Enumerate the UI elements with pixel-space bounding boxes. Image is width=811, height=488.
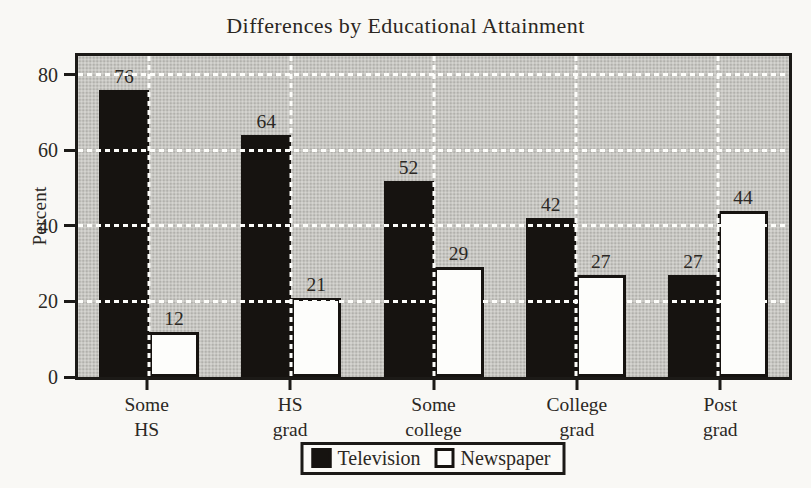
gridline-vertical [290,56,293,377]
gridline-vertical [716,56,719,377]
bar-value-label: 12 [164,308,184,329]
bar-newspaper [718,211,768,377]
bar-newspaper [434,267,484,377]
x-axis-category-label: Some HS [124,392,168,442]
legend-swatch-newspaper-icon [435,448,455,468]
bar-newspaper [149,332,199,377]
y-axis-tick-label: 20 [38,291,58,311]
bar-value-label: 42 [541,194,561,215]
bar-value-label: 64 [257,111,277,132]
bar-value-label: 52 [399,157,419,178]
bar-television [668,275,718,377]
x-axis-tick [575,380,578,390]
bar-unit-television: 52 [384,157,434,377]
bar-unit-newspaper: 29 [434,243,484,377]
bar-value-label: 29 [449,243,469,264]
bar-unit-newspaper: 27 [576,251,626,377]
x-axis-tick [432,380,435,390]
bar-unit-television: 27 [668,251,718,377]
x-axis-tick [145,380,148,390]
y-axis-tick-label: 80 [38,65,58,85]
legend-swatch-television-icon [312,448,332,468]
x-axis-tick [719,380,722,390]
bar-unit-newspaper: 12 [149,308,199,377]
bar-value-label: 27 [591,251,611,272]
legend: Television Newspaper [301,442,566,475]
y-axis-tick [64,224,75,227]
bar-unit-newspaper: 44 [718,187,768,377]
x-axis-category-label: Post grad [703,392,738,442]
gridline-vertical [148,56,151,377]
bar-television [241,135,291,377]
x-axis: Some HSHS gradSome collegeCollege gradPo… [75,380,792,442]
x-axis-tick [289,380,292,390]
bar-value-label: 76 [114,66,134,87]
x-axis-category-label: College grad [547,392,608,442]
legend-label-newspaper: Newspaper [461,448,551,468]
scanned-chart-page: Differences by Educational Attainment Pe… [0,0,811,488]
y-axis-tick [64,73,75,76]
y-axis-tick-label: 60 [38,140,58,160]
legend-label-television: Television [338,448,421,468]
x-axis-category-label: HS grad [273,392,308,442]
y-axis-tick-label: 40 [38,216,58,236]
y-axis-tick [64,300,75,303]
chart-title: Differences by Educational Attainment [0,13,811,39]
bar-unit-television: 76 [99,66,149,377]
x-axis-category-label: Some college [405,392,461,442]
gridline-vertical [574,56,577,377]
y-axis: 020406080 [0,53,75,380]
bar-television [526,218,576,377]
bar-value-label: 44 [733,187,753,208]
bar-value-label: 27 [683,251,703,272]
y-axis-tick [64,149,75,152]
bar-value-label: 21 [307,274,327,295]
bar-television [99,90,149,377]
bar-unit-newspaper: 21 [291,274,341,377]
y-axis-tick [64,376,75,379]
gridline-vertical [432,56,435,377]
bar-newspaper [291,298,341,377]
bar-unit-television: 42 [526,194,576,377]
bar-newspaper [576,275,626,377]
bar-television [384,181,434,377]
plot-area: 76126421522942272744 [75,53,792,380]
y-axis-tick-label: 0 [48,367,58,387]
